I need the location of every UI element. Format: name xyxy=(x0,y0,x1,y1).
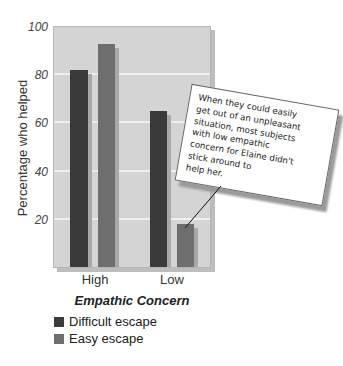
y-axis-label: Percentage who helped xyxy=(15,80,30,217)
x-axis-label: Empathic Concern xyxy=(75,293,190,308)
legend-item-easy-escape: Easy escape xyxy=(54,330,157,347)
y-tick-80: 80 xyxy=(24,68,48,82)
y-tick-100: 100 xyxy=(24,20,48,34)
legend-item-difficult-escape: Difficult escape xyxy=(54,313,157,330)
bar-low-easy-escape xyxy=(177,224,194,267)
x-tick-high: High xyxy=(82,272,109,287)
bar-high-difficult-escape xyxy=(70,70,88,267)
legend: Difficult escape Easy escape xyxy=(54,313,157,347)
x-tick-low: Low xyxy=(160,272,184,287)
legend-swatch-easy xyxy=(54,334,64,344)
y-tick-40: 40 xyxy=(24,165,48,179)
y-tick-60: 60 xyxy=(24,116,48,130)
bar-low-difficult-escape xyxy=(150,111,167,267)
y-tick-20: 20 xyxy=(24,213,48,227)
legend-label: Easy escape xyxy=(69,331,143,346)
bar-high-easy-escape xyxy=(98,44,115,267)
legend-label: Difficult escape xyxy=(69,314,157,329)
legend-swatch-difficult xyxy=(54,317,64,327)
